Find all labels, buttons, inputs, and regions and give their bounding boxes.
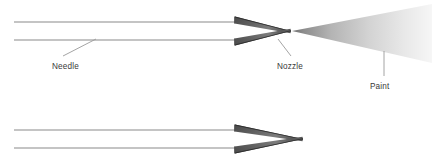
airbrush-diagram-canvas: Needle Nozzle Paint [0, 0, 432, 158]
view-open-nozzle-spraying: Needle Nozzle Paint [14, 4, 432, 91]
view-closed-nozzle-sealed [14, 125, 303, 154]
airbrush-diagram: Needle Nozzle Paint [0, 0, 432, 158]
nozzle-leader-line [278, 39, 291, 56]
nozzle-label: Nozzle [277, 62, 303, 71]
paint-label: Paint [370, 82, 390, 91]
needle-leader-line [63, 39, 96, 56]
paint-spray-cone [292, 4, 432, 63]
needle-label: Needle [52, 62, 79, 71]
